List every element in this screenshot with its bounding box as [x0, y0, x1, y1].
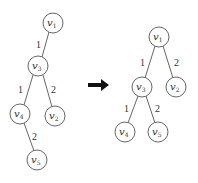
- node-v1: v1: [149, 27, 169, 47]
- edge-weight: 2: [155, 103, 160, 114]
- transform-arrow-icon: [88, 79, 109, 91]
- edge-weight: 2: [51, 84, 56, 95]
- tree-diagram: 1 1 2 2 v1 v3 v4 v2 v5: [0, 0, 198, 183]
- node-v3: v3: [132, 77, 152, 97]
- node-v4: v4: [10, 104, 30, 124]
- edge-weight: 1: [124, 103, 129, 114]
- node-v2: v2: [166, 77, 186, 97]
- right-tree: 1 2 1 2 v1 v3 v2 v4 v5: [115, 27, 186, 142]
- node-v5: v5: [27, 150, 47, 170]
- edge-v3-v4: [24, 75, 33, 105]
- node-v3: v3: [28, 56, 48, 76]
- edge-v1-v2: [163, 46, 173, 78]
- node-v5: v5: [148, 122, 168, 142]
- node-v4: v4: [115, 122, 135, 142]
- node-v2: v2: [45, 106, 65, 126]
- edge-v1-v3: [145, 46, 155, 78]
- edge-v3-v4: [128, 96, 138, 123]
- edge-weight: 2: [32, 131, 37, 142]
- edge-v3-v5: [146, 96, 155, 123]
- edge-weight: 1: [36, 39, 41, 50]
- edge-weight: 1: [18, 84, 23, 95]
- edge-weight: 1: [140, 57, 145, 68]
- edge-weight: 2: [174, 57, 179, 68]
- edge-v1-v3: [42, 32, 49, 57]
- node-v1: v1: [43, 13, 63, 33]
- left-tree: 1 1 2 2 v1 v3 v4 v2 v5: [10, 13, 65, 170]
